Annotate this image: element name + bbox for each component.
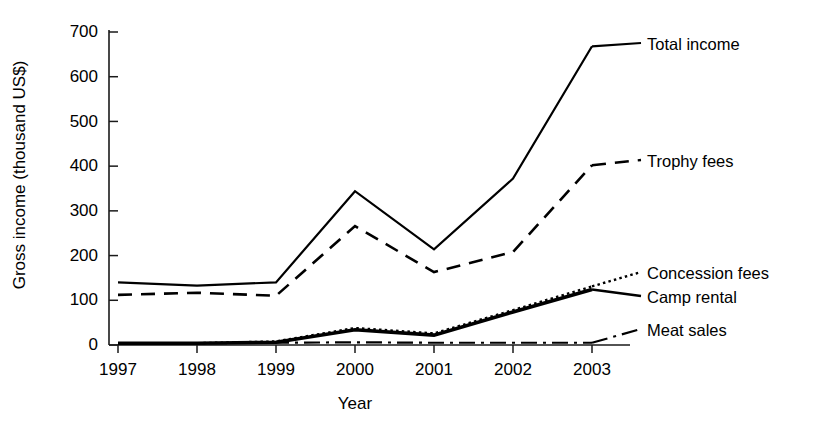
y-tick-marks (109, 32, 118, 345)
leader-line-meat-sales (592, 329, 641, 343)
plot-area (0, 0, 833, 435)
series-line-camp-rental (118, 290, 592, 344)
leader-line-total-income (592, 43, 641, 46)
series-group (118, 46, 592, 343)
leader-line-concession-fees (592, 272, 641, 286)
label-leader-lines (592, 43, 641, 343)
series-line-trophy-fees (118, 165, 592, 296)
leader-line-trophy-fees (592, 160, 641, 165)
series-line-total-income (118, 46, 592, 285)
x-tick-marks (118, 345, 592, 353)
series-line-meat-sales (118, 342, 592, 343)
chart-figure: Gross income (thousand US$) 700 600 500 … (0, 0, 833, 435)
leader-line-camp-rental (592, 290, 641, 296)
series-line-concession-fees (118, 286, 592, 343)
